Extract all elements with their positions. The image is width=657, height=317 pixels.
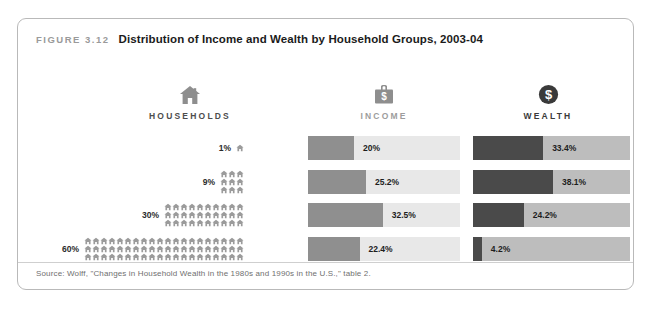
income-bar-fill: [308, 203, 383, 227]
house-icon: [132, 237, 140, 245]
coin-dollar-icon: $: [488, 81, 608, 105]
house-icon: [172, 245, 180, 253]
house-icon: [132, 253, 140, 261]
house-icon: [212, 245, 220, 253]
column-label-income: INCOME: [324, 111, 444, 121]
house-icon: [188, 253, 196, 261]
house-icon: [164, 237, 172, 245]
house-icon: [228, 186, 236, 194]
house-icon: [220, 237, 228, 245]
house-icon: [180, 253, 188, 261]
house-icon: [84, 245, 92, 253]
house-icon: [236, 219, 244, 227]
house-icon: [148, 253, 156, 261]
briefcase-dollar-icon: $: [324, 81, 444, 105]
house-icon: [204, 245, 212, 253]
income-bar: 22.4%: [308, 237, 460, 261]
house-icon: [100, 245, 108, 253]
house-icon: [236, 211, 244, 219]
house-icon: [220, 170, 228, 178]
house-icon: [180, 219, 188, 227]
house-icon: [204, 237, 212, 245]
income-bar-value: 22.4%: [369, 244, 393, 254]
house-icon: [228, 237, 236, 245]
chart-row: 30%32.5%24.2%: [18, 198, 633, 231]
house-icon: [148, 245, 156, 253]
house-icon: [180, 237, 188, 245]
household-pictogram-grid: [236, 144, 244, 152]
house-icon: [188, 211, 196, 219]
house-icon: [212, 253, 220, 261]
source-note: Source: Wolff, "Changes in Household Wea…: [36, 269, 371, 278]
house-icon: [196, 253, 204, 261]
wealth-bar-value: 4.2%: [491, 244, 510, 254]
house-icon: [228, 245, 236, 253]
wealth-bar-fill: [473, 203, 524, 227]
house-icon: [164, 253, 172, 261]
house-icon: [124, 245, 132, 253]
house-icon: [132, 245, 140, 253]
household-group-label: 60%: [62, 244, 79, 254]
figure-number: FIGURE 3.12: [36, 34, 110, 45]
house-icon: [212, 219, 220, 227]
income-bar: 32.5%: [308, 203, 460, 227]
column-header-income: $ INCOME: [324, 81, 444, 121]
households-cell: 30%: [142, 198, 244, 231]
house-icon: [156, 253, 164, 261]
house-icon: [140, 253, 148, 261]
house-icon: [228, 170, 236, 178]
income-bar: 20%: [308, 136, 460, 160]
column-header-households: HOUSEHOLDS: [130, 81, 250, 121]
house-icon: [204, 203, 212, 211]
column-header-wealth: $ WEALTH: [488, 81, 608, 121]
house-icon: [172, 219, 180, 227]
house-icon: [236, 253, 244, 261]
income-bar-value: 25.2%: [375, 177, 399, 187]
house-icon: [236, 170, 244, 178]
house-icon: [140, 245, 148, 253]
figure-title-row: FIGURE 3.12 Distribution of Income and W…: [36, 33, 483, 45]
house-icon: [220, 253, 228, 261]
house-icon: [212, 237, 220, 245]
chart-row: 1%20%33.4%: [18, 131, 633, 165]
household-group-label: 30%: [142, 210, 159, 220]
wealth-bar: 4.2%: [473, 237, 630, 261]
house-icon: [156, 237, 164, 245]
house-icon: [220, 211, 228, 219]
house-icon: [130, 81, 250, 105]
wealth-bar-value: 24.2%: [533, 210, 557, 220]
house-icon: [204, 253, 212, 261]
house-icon: [172, 211, 180, 219]
house-icon: [92, 253, 100, 261]
house-icon: [180, 211, 188, 219]
wealth-bar-fill: [473, 136, 543, 160]
house-icon: [236, 186, 244, 194]
house-icon: [228, 253, 236, 261]
house-icon: [92, 245, 100, 253]
house-icon: [164, 203, 172, 211]
household-group-label: 1%: [219, 143, 231, 153]
house-icon: [156, 245, 164, 253]
income-bar-fill: [308, 136, 354, 160]
figure-title: Distribution of Income and Wealth by Hou…: [119, 33, 483, 45]
wealth-bar-fill: [473, 237, 482, 261]
income-bar-fill: [308, 237, 360, 261]
house-icon: [220, 219, 228, 227]
house-icon: [220, 203, 228, 211]
house-icon: [196, 245, 204, 253]
house-icon: [228, 203, 236, 211]
wealth-bar: 38.1%: [473, 170, 630, 194]
house-icon: [196, 219, 204, 227]
house-icon: [236, 237, 244, 245]
house-icon: [100, 253, 108, 261]
household-pictogram-grid: [164, 203, 244, 227]
house-icon: [196, 237, 204, 245]
figure-card: FIGURE 3.12 Distribution of Income and W…: [17, 18, 634, 290]
house-icon: [124, 237, 132, 245]
svg-text:$: $: [381, 91, 387, 102]
household-group-label: 9%: [203, 177, 215, 187]
house-icon: [196, 211, 204, 219]
house-icon: [164, 211, 172, 219]
house-icon: [92, 237, 100, 245]
wealth-bar: 33.4%: [473, 136, 630, 160]
